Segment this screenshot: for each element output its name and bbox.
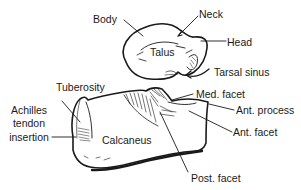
label-neck: Neck [199, 8, 223, 20]
label-med-facet: Med. facet [196, 88, 245, 100]
label-achilles-line3: insertion [6, 131, 52, 143]
label-achilles-line2: tendon [8, 117, 50, 129]
label-talus: Talus [150, 46, 175, 58]
label-post-facet: Post. facet [191, 172, 241, 184]
label-tarsal-sinus: Tarsal sinus [214, 66, 269, 78]
label-body: Body [93, 13, 117, 25]
achilles-insertion-stipple [78, 128, 90, 141]
label-ant-facet: Ant. facet [233, 126, 277, 138]
talus-calcaneus-diagram: Body Neck Head Talus Tarsal sinus Tubero… [0, 0, 301, 190]
bone-illustration [0, 0, 301, 190]
posterior-facet-hatching [124, 93, 158, 126]
label-ant-process: Ant. process [236, 104, 294, 116]
label-tuberosity: Tuberosity [56, 81, 105, 93]
label-head: Head [227, 36, 252, 48]
label-calcaneus: Calcaneus [102, 134, 152, 146]
label-achilles-line1: Achilles [8, 104, 50, 116]
